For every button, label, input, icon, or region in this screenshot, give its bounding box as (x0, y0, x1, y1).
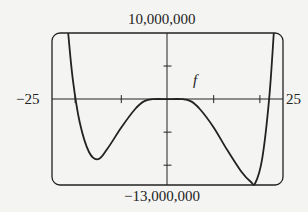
plot-area (0, 0, 308, 212)
function-curve (68, 33, 274, 185)
